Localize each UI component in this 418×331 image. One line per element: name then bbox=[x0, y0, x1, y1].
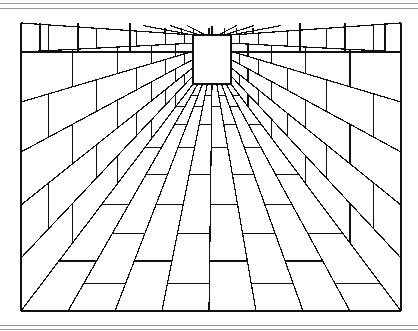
corridor-drawing bbox=[0, 0, 418, 331]
ceiling-bricks bbox=[143, 26, 281, 35]
end-window bbox=[193, 35, 231, 84]
